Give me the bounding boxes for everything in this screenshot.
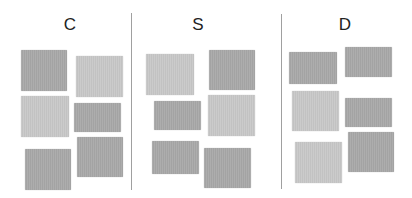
tile-d-5-light [295, 142, 342, 183]
tile-d-1-dark [289, 52, 337, 84]
tile-d-3-light [292, 91, 339, 131]
tile-c-4-dark [74, 103, 121, 132]
tile-s-5-dark [152, 141, 199, 174]
tile-c-1-dark [21, 50, 67, 91]
tile-c-6-dark [77, 137, 123, 177]
tile-s-6-dark [204, 148, 251, 188]
column-divider-1 [131, 13, 132, 190]
tile-d-2-dark [345, 47, 392, 77]
tile-c-2-light [76, 56, 123, 97]
tile-s-3-dark [154, 101, 201, 130]
tile-c-3-light [21, 96, 69, 137]
tile-s-1-light [146, 54, 194, 95]
column-divider-2 [281, 14, 282, 189]
column-label-s: S [183, 15, 213, 35]
tile-s-2-dark [209, 50, 255, 90]
tile-c-5-dark [25, 149, 71, 190]
tile-d-6-dark [348, 132, 394, 172]
column-label-c: C [55, 15, 85, 35]
column-label-d: D [330, 15, 360, 35]
tile-d-4-dark [345, 98, 392, 127]
tile-s-4-light [208, 95, 255, 136]
